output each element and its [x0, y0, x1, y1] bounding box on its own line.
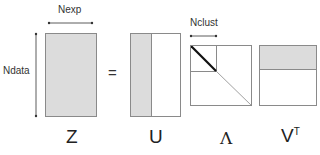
vt-base: V [281, 125, 294, 146]
matrix-z [45, 33, 97, 117]
nexp-label: Nexp [58, 4, 81, 15]
vt-shaded-rows [260, 46, 316, 70]
matrix-u [130, 33, 181, 117]
label-vt: VT [281, 125, 300, 147]
matrix-vt [259, 45, 317, 106]
u-shaded-columns [131, 34, 152, 116]
matrix-lambda [190, 45, 252, 106]
equals-sign: = [108, 64, 117, 81]
vt-superscript: T [294, 126, 300, 137]
lambda-diagonal [191, 46, 253, 107]
label-lambda: Λ [220, 128, 232, 148]
label-u: U [149, 126, 163, 148]
ndata-label: Ndata [3, 65, 30, 76]
label-z: Z [66, 126, 78, 148]
nclust-label: Nclust [190, 17, 218, 28]
